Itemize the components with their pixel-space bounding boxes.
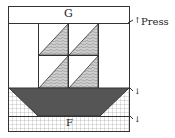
top-band-label: G bbox=[64, 7, 73, 20]
press-arrow-icon: ↑ bbox=[134, 16, 141, 25]
press-down-arrow-icon: ↓ bbox=[134, 115, 141, 124]
press-down-arrow-icon: ↓ bbox=[134, 87, 141, 96]
press-label: Press bbox=[141, 16, 169, 27]
bottom-band-label: F bbox=[66, 117, 73, 128]
